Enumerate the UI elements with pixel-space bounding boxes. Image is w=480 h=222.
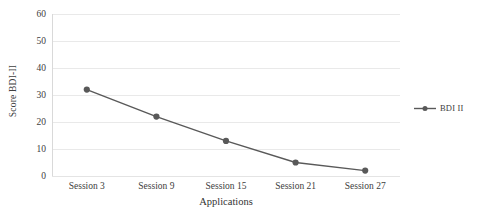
legend-label-bdi-ii: BDI II	[440, 103, 464, 113]
data-point-2	[223, 138, 229, 144]
data-point-0	[84, 87, 90, 93]
gridline-0	[52, 176, 400, 177]
series-markers	[84, 87, 369, 174]
y-tick-label-20: 20	[22, 117, 46, 127]
y-tick-label-60: 60	[22, 9, 46, 19]
x-axis-title: Applications	[52, 196, 400, 207]
data-point-3	[293, 159, 299, 165]
line-chart: Score BDI-II 0102030405060 Session 3Sess…	[0, 0, 480, 222]
legend: BDI II	[414, 103, 464, 113]
y-tick-label-40: 40	[22, 63, 46, 73]
data-point-1	[153, 114, 159, 120]
y-axis-title-label: Score BDI-II	[8, 65, 18, 117]
legend-swatch-bdi-ii	[414, 104, 436, 113]
y-axis-title: Score BDI-II	[4, 0, 22, 182]
series-plot	[52, 14, 400, 176]
series-line-bdi-ii	[87, 90, 365, 171]
y-axis-tick-labels: 0102030405060	[22, 14, 46, 176]
y-tick-label-30: 30	[22, 90, 46, 100]
y-tick-label-50: 50	[22, 36, 46, 46]
x-tick-label-4: Session 27	[320, 179, 410, 193]
x-axis-tick-labels: Session 3Session 9Session 15Session 21Se…	[52, 179, 400, 195]
data-point-4	[362, 168, 368, 174]
plot-area	[52, 14, 400, 176]
y-tick-label-10: 10	[22, 144, 46, 154]
